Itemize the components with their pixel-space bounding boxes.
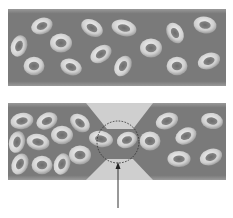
constricted-vessel-panel — [6, 103, 226, 208]
normal-vessel-panel — [8, 9, 226, 86]
diagram-canvas — [0, 0, 233, 218]
arrow-icon — [116, 162, 121, 208]
